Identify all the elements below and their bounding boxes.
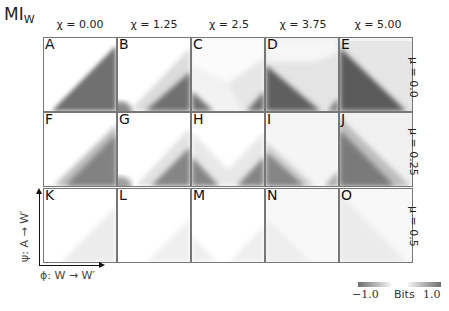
panel-g: G (117, 112, 191, 187)
x-axis-arrow (39, 265, 101, 266)
y-axis-arrow (39, 192, 40, 266)
panel-m: M (191, 188, 265, 263)
row-header-mu-1: μ = 0.25 (407, 128, 420, 176)
panel-label: A (45, 37, 55, 52)
panel-label: H (193, 112, 204, 127)
panel-label: L (119, 188, 127, 203)
panel-a: A (43, 37, 117, 112)
column-header-chi-2: χ = 2.5 (192, 18, 266, 31)
x-axis-label: ϕ: W → W′ (40, 269, 95, 282)
panel-b: B (117, 37, 191, 112)
title-main: MI (4, 4, 24, 24)
panel-label: I (267, 112, 271, 127)
figure-title: MIW (4, 4, 35, 26)
panel-label: M (193, 188, 205, 203)
panel-label: O (341, 188, 352, 203)
colorbar-positive (408, 282, 441, 287)
title-subscript: W (24, 13, 35, 26)
row-header-mu-0: μ = 0.0 (407, 57, 420, 98)
panel-n: N (265, 188, 339, 263)
panel-label: C (193, 37, 203, 52)
column-header-chi-3: χ = 3.75 (266, 18, 340, 31)
panel-label: F (45, 112, 53, 127)
panel-label: B (119, 37, 129, 52)
panel-i: I (265, 112, 339, 187)
colorbar-max-label: 1.0 (423, 288, 441, 301)
panel-c: C (191, 37, 265, 112)
panel-label: G (119, 112, 130, 127)
colorbar-min-label: −1.0 (352, 288, 379, 301)
column-header-chi-4: χ = 5.00 (341, 18, 415, 31)
panel-f: F (43, 112, 117, 187)
panel-h: H (191, 112, 265, 187)
panel-k: K (43, 188, 117, 263)
colorbar-unit-label: Bits (394, 288, 415, 301)
panel-label: J (341, 112, 345, 127)
panel-label: D (267, 37, 278, 52)
panel-l: L (117, 188, 191, 263)
panel-e: E (339, 37, 413, 112)
colorbar-negative (358, 282, 391, 287)
panel-j: J (339, 112, 413, 187)
panel-d: D (265, 37, 339, 112)
panel-o: O (339, 188, 413, 263)
column-header-chi-1: χ = 1.25 (117, 18, 191, 31)
heatmap-grid: A B C D E (43, 37, 415, 264)
panel-label: N (267, 188, 277, 203)
row-header-mu-2: μ = 0.5 (407, 206, 420, 247)
column-header-chi-0: χ = 0.00 (43, 18, 117, 31)
y-axis-label: ψ: A → W′ (18, 210, 31, 262)
panel-label: K (45, 188, 54, 203)
panel-label: E (341, 37, 350, 52)
